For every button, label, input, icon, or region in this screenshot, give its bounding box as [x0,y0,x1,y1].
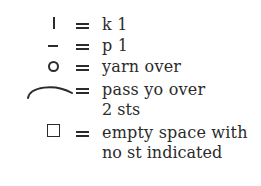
legend-row-knit: k 1 [0,14,261,36]
purl-stitch-icon [48,45,58,47]
equals-sign [76,131,89,137]
equals-sign [76,23,89,29]
legend-row-pass-yo-over: pass yo over 2 sts [0,78,261,122]
knit-stitch-icon [53,17,55,29]
legend-label-empty-space: empty space with [102,123,248,143]
knitting-chart-legend: k 1 p 1 yarn over pass yo over 2 sts emp… [0,0,261,186]
equals-sign [76,44,89,50]
equals-sign [76,88,89,94]
equals-sign [76,65,89,71]
yarn-over-icon [48,61,59,72]
legend-label-knit: k 1 [102,15,128,35]
legend-row-yarn-over: yarn over [0,56,261,78]
legend-label-pass-yo-over: pass yo over [102,80,205,100]
legend-label-yarn-over: yarn over [102,57,181,77]
pass-yo-over-arc-icon [24,80,76,102]
legend-row-empty-space: empty space with no st indicated [0,122,261,166]
empty-square-icon [47,124,60,137]
legend-label-purl: p 1 [102,36,128,56]
legend-label-empty-space-cont: no st indicated [102,143,222,163]
legend-label-pass-yo-over-cont: 2 sts [102,100,140,120]
legend-row-purl: p 1 [0,35,261,57]
